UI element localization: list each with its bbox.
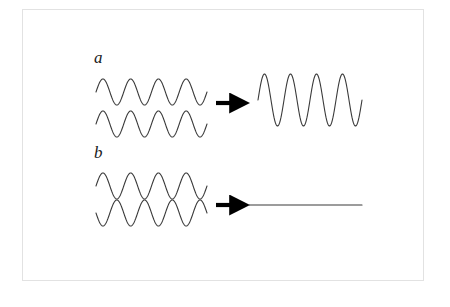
input-wave-b-bottom bbox=[96, 200, 207, 226]
input-wave-a-bottom bbox=[96, 111, 207, 137]
wave-interference-svg bbox=[0, 0, 450, 307]
panel-label-b: b bbox=[94, 144, 103, 161]
panel-b-group bbox=[96, 173, 362, 226]
panel-a-group bbox=[96, 74, 362, 137]
input-wave-b-top bbox=[96, 173, 207, 199]
panel-label-a: a bbox=[94, 49, 103, 66]
figure-root: a b bbox=[0, 0, 450, 307]
output-wave-a bbox=[258, 74, 362, 126]
input-wave-a-top bbox=[96, 79, 207, 105]
